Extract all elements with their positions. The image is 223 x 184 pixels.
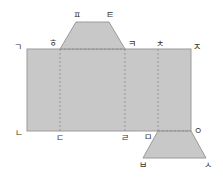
label-ieung: ㅇ [194,126,202,136]
label-rieul: ㄹ [121,133,129,143]
label-nieun: ㄴ [15,128,23,138]
label-tieut: ㅌ [106,10,114,20]
label-hieut: ㅎ [49,38,57,48]
label-bieup: ㅂ [139,160,147,170]
prism-net-diagram: ㄱ ㅎ ㅍ ㅌ ㅋ ㅊ ㅈ ㄴ ㄷ ㄹ ㅁ ㅇ ㅂ ㅅ [0,0,223,184]
label-kieuk: ㅋ [128,39,136,49]
label-siot: ㅅ [204,160,212,170]
label-digeut: ㄷ [56,133,64,143]
label-chieut: ㅊ [156,39,164,49]
main-rectangle [27,49,191,131]
label-giyeok: ㄱ [14,42,22,52]
label-mieum: ㅁ [144,132,152,142]
label-pieup: ㅍ [73,10,81,20]
top-trapezoid [60,22,125,49]
label-jieut: ㅈ [193,42,201,52]
